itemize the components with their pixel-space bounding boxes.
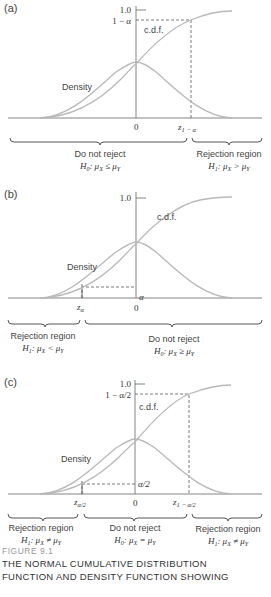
brace-rejection (8, 320, 80, 327)
region-hypothesis: H1: μX > μY (207, 161, 250, 172)
panel-b-label: (b) (4, 188, 17, 200)
region-hypothesis: H0: μX ≤ μY (79, 161, 121, 172)
x-crit-left-label: zα (76, 302, 85, 313)
panel-c: (c) 1.0 1 − α/2 α/2 c.d.f. Density 0 zα/… (4, 376, 262, 547)
panel-a: (a) 1.0 1 − α c.d.f. Density 0 z1 − α Do… (4, 2, 262, 172)
density-label: Density (62, 82, 93, 92)
region-hypothesis: H1: μX ≠ μY (20, 535, 62, 546)
x-crit-right-label: z1 − α/2 (172, 497, 197, 508)
density-label: Density (67, 262, 98, 272)
brace-do-not-reject (85, 320, 262, 327)
region-title: Rejection region (195, 524, 260, 534)
figure-number: FIGURE 9.1 (2, 546, 53, 556)
dashed-guide (82, 287, 136, 298)
panel-c-label: (c) (4, 376, 17, 388)
tick-label-level: 1 − α (112, 16, 131, 26)
brace-rejection (192, 138, 262, 145)
brace-do-not-reject (10, 138, 187, 145)
panel-a-label: (a) (4, 2, 17, 14)
tick-label-1: 1.0 (120, 5, 132, 15)
brace-rejection-left (8, 514, 78, 521)
cdf-label: c.d.f. (144, 25, 164, 35)
region-title: Do not reject (109, 523, 161, 533)
x-crit-left-label: zα/2 (73, 497, 87, 508)
region-title: Do not reject (74, 149, 126, 159)
region-hypothesis: H1: μX < μY (21, 343, 64, 354)
dashed-guide-lower (82, 484, 135, 494)
caption-line-2: FUNCTION AND DENSITY FUNCTION SHOWING (2, 570, 271, 583)
region-title: Rejection region (10, 331, 75, 341)
region-hypothesis: H0: μX ≥ μY (153, 346, 195, 357)
x-zero-label: 0 (134, 122, 139, 132)
figure-canvas: (a) 1.0 1 − α c.d.f. Density 0 z1 − α Do… (0, 0, 271, 597)
alpha-half-label: α/2 (138, 479, 150, 489)
density-label: Density (61, 454, 92, 464)
brace-do-not-reject (84, 514, 187, 521)
region-hypothesis: H0: μX = μY (113, 535, 156, 546)
region-hypothesis: H1: μX ≠ μY (207, 536, 249, 547)
tick-label-1: 1.0 (120, 379, 132, 389)
region-title: Do not reject (148, 334, 200, 344)
cdf-label: c.d.f. (139, 402, 159, 412)
x-crit-right-label: z1 − α (177, 122, 196, 133)
region-title: Rejection region (8, 523, 73, 533)
figure-caption: THE NORMAL CUMULATIVE DISTRIBUTION FUNCT… (2, 557, 271, 583)
tick-label-level: 1 − α/2 (105, 390, 131, 400)
brace-rejection-right (192, 514, 262, 521)
caption-line-1: THE NORMAL CUMULATIVE DISTRIBUTION (2, 557, 271, 570)
cdf-label: c.d.f. (157, 212, 177, 222)
x-zero-label: 0 (133, 498, 138, 508)
alpha-level-label: α (139, 292, 144, 302)
region-title: Rejection region (196, 149, 261, 159)
density-curve (40, 439, 231, 494)
panel-b: (b) 1.0 α c.d.f. Density 0 zα Rejection … (4, 188, 262, 357)
tick-label-1: 1.0 (120, 193, 132, 203)
x-zero-label: 0 (134, 303, 139, 313)
